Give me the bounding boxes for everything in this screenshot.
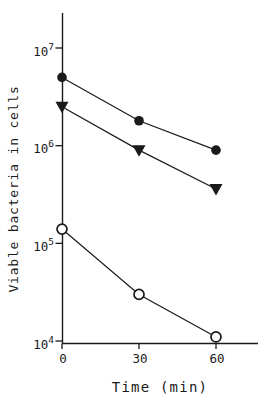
x-axis-title: Time (min)	[112, 379, 208, 395]
series-line-open-circle	[62, 229, 216, 337]
data-point-filled-triangle-60min	[210, 184, 223, 196]
data-point-filled-circle-30min	[134, 116, 144, 126]
y-tick-label-6: 106	[33, 138, 54, 156]
x-tick-label-60: 60	[209, 351, 224, 366]
data-point-filled-circle-0min	[57, 73, 67, 83]
data-point-filled-triangle-0min	[56, 102, 69, 114]
data-point-open-circle-0min	[57, 224, 67, 234]
data-point-filled-circle-60min	[211, 145, 221, 155]
y-tick-label-4: 104	[33, 334, 54, 352]
y-tick-label-7: 107	[33, 41, 54, 59]
chart-plot: 10710610510403060	[0, 0, 268, 408]
x-tick-label-30: 30	[132, 351, 147, 366]
x-tick-label-0: 0	[59, 351, 67, 366]
axis-lines	[62, 13, 258, 344]
data-point-filled-triangle-30min	[133, 145, 146, 157]
series-line-filled-circle	[62, 77, 216, 150]
figure: 10710610510403060 Viable bacteria in cel…	[0, 0, 268, 408]
y-axis-title: Viable bacteria in cells	[6, 85, 21, 292]
data-point-open-circle-60min	[211, 332, 221, 342]
y-tick-label-5: 105	[33, 236, 54, 254]
data-point-open-circle-30min	[134, 289, 144, 299]
